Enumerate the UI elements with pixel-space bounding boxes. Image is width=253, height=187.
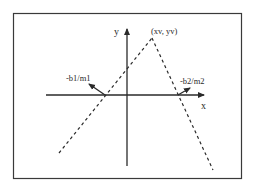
right-intercept-label: -b2/m2	[180, 76, 205, 86]
diagram-canvas: y x (xv, yv) -b1/m1 -b2/m2	[0, 0, 253, 187]
y-axis-label: y	[114, 26, 119, 37]
left-intercept-label: -b1/m1	[66, 73, 91, 83]
right-intercept-arrow-icon	[178, 88, 190, 95]
vertex-label: (xv, yv)	[151, 26, 178, 36]
left-intercept-arrow-icon	[89, 84, 105, 95]
x-axis-label: x	[201, 100, 206, 111]
